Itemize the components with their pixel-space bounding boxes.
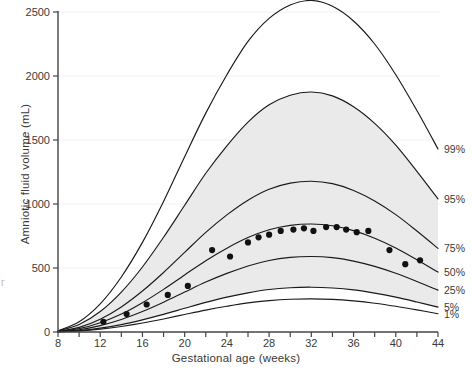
data-point [278,228,284,234]
data-point [417,257,423,263]
data-point [165,292,171,298]
y-tick-label-2000: 2000 [6,70,50,82]
data-point [144,301,150,307]
x-tick-label-40: 40 [390,337,402,349]
x-tick-label-44: 44 [432,337,444,349]
y-axis-title: Amniotic fluid volume (mL) [19,64,31,284]
data-point [245,239,251,245]
data-point [100,319,106,325]
data-point [124,311,130,317]
y-tick-label-0: 0 [6,326,50,338]
percentile-label-75: 75% [444,242,465,254]
data-point [386,247,392,253]
data-point [301,225,307,231]
data-point [266,232,272,238]
x-tick-label-32: 32 [305,337,317,349]
x-tick-label-12: 12 [94,337,106,349]
data-point [255,234,261,240]
percentile-label-99: 99% [444,143,465,155]
data-point [354,229,360,235]
data-point [310,228,316,234]
y-tick-label-1000: 1000 [6,198,50,210]
data-point [290,227,296,233]
data-point [323,224,329,230]
y-tick-label-500: 500 [6,262,50,274]
x-tick-label-16: 16 [136,337,148,349]
data-point [209,247,215,253]
data-point [365,228,371,234]
x-tick-label-28: 28 [263,337,275,349]
percentile-label-1: 1% [444,308,459,320]
percentile-label-95: 95% [444,193,465,205]
data-point [185,283,191,289]
data-point [402,261,408,267]
x-axis-title: Gestational age (weeks) [0,352,472,364]
data-point [334,224,340,230]
y-tick-label-1500: 1500 [6,134,50,146]
data-point [227,253,233,259]
data-point [343,227,349,233]
chart-canvas [0,0,472,373]
x-tick-label-8: 8 [55,337,61,349]
x-tick-label-36: 36 [347,337,359,349]
amniotic-fluid-volume-chart: г Amniotic fluid volume (mL) Gestational… [0,0,472,373]
percentile-label-50: 50% [444,266,465,278]
percentile-band-5-95 [58,92,438,332]
x-tick-label-24: 24 [221,337,233,349]
percentile-label-25: 25% [444,284,465,296]
y-tick-label-2500: 2500 [6,6,50,18]
x-tick-label-20: 20 [179,337,191,349]
